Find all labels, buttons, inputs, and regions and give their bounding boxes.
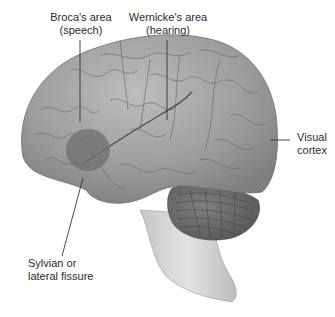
broca-label-line1: Broca's area — [43, 11, 119, 24]
sylvian-label-line2: lateral fissure — [28, 270, 93, 283]
label-visual-cortex: Visual cortex — [290, 131, 334, 157]
visual-label-line2: cortex — [290, 144, 334, 157]
wernicke-label-line1: Wernicke's area — [120, 11, 216, 24]
cerebrum — [22, 35, 278, 203]
label-wernicke-area: Wernicke's area (hearing) — [120, 11, 216, 37]
label-sylvian-fissure: Sylvian or lateral fissure — [28, 257, 93, 283]
broca-label-line2: (speech) — [43, 24, 119, 37]
visual-label-line1: Visual — [290, 131, 334, 144]
wernicke-label-line2: (hearing) — [120, 24, 216, 37]
label-broca-area: Broca's area (speech) — [43, 11, 119, 37]
broca-region — [66, 129, 110, 171]
sylvian-label-line1: Sylvian or — [28, 257, 93, 270]
